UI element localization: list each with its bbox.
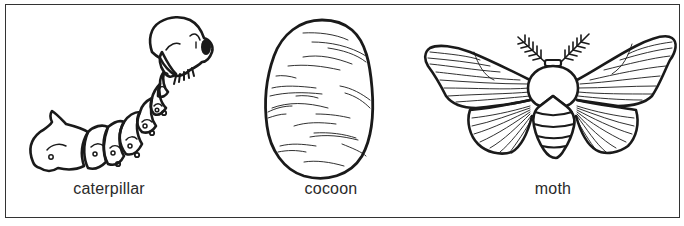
cocoon-label: cocoon — [305, 180, 358, 198]
cocoon-illustration — [266, 20, 373, 178]
caterpillar-label: caterpillar — [73, 180, 145, 198]
moth-illustration — [425, 34, 675, 158]
moth-label: moth — [535, 180, 571, 198]
caterpillar-illustration — [30, 17, 212, 171]
